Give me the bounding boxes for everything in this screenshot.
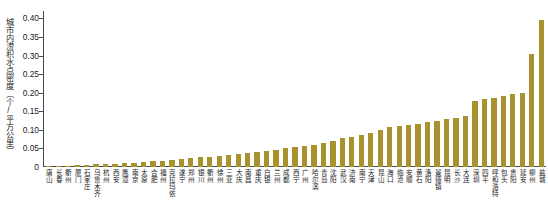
bar[interactable] bbox=[368, 11, 373, 167]
bar-rect bbox=[46, 166, 51, 167]
bar-rect bbox=[434, 121, 439, 167]
bar[interactable] bbox=[283, 11, 288, 167]
bar-rect bbox=[188, 158, 193, 167]
bar-rect bbox=[160, 161, 165, 167]
x-axis-tick-label: 延安 bbox=[519, 169, 526, 183]
bar[interactable] bbox=[378, 11, 383, 167]
bar-rect bbox=[179, 159, 184, 167]
y-axis-tick-mark bbox=[39, 18, 43, 19]
bar[interactable] bbox=[112, 11, 117, 167]
x-axis-tick-label: 福州 bbox=[159, 169, 166, 183]
x-axis-tick-label: 沈阳 bbox=[329, 169, 336, 183]
bar-rect bbox=[501, 96, 506, 167]
bar[interactable] bbox=[169, 11, 174, 167]
y-axis-tick-mark bbox=[39, 130, 43, 131]
bar-rect bbox=[368, 133, 373, 167]
bar[interactable] bbox=[453, 11, 458, 167]
bar[interactable] bbox=[292, 11, 297, 167]
bar[interactable] bbox=[434, 11, 439, 167]
bar[interactable] bbox=[122, 11, 127, 167]
bar[interactable] bbox=[56, 11, 61, 167]
bar[interactable] bbox=[406, 11, 411, 167]
bar[interactable] bbox=[397, 11, 402, 167]
x-axis-tick-label: 长沙 bbox=[453, 169, 460, 183]
bar[interactable] bbox=[340, 11, 345, 167]
bar-rect bbox=[453, 118, 458, 167]
bar[interactable] bbox=[188, 11, 193, 167]
bar[interactable] bbox=[472, 11, 477, 167]
bar[interactable] bbox=[236, 11, 241, 167]
bar[interactable] bbox=[321, 11, 326, 167]
y-axis-tick-label: 0 bbox=[34, 163, 39, 171]
bar[interactable] bbox=[226, 11, 231, 167]
bar[interactable] bbox=[217, 11, 222, 167]
bar[interactable] bbox=[425, 11, 430, 167]
bar-rect bbox=[302, 146, 307, 167]
x-axis-tick-label: 遂宁 bbox=[178, 169, 185, 183]
x-axis-tick-label: 景德镇 bbox=[434, 169, 441, 190]
bar-rect bbox=[93, 164, 98, 167]
bar-rect bbox=[226, 155, 231, 167]
y-axis-tick-label: 0.05 bbox=[23, 144, 39, 152]
bar-rect bbox=[217, 156, 222, 167]
x-axis-tick-label: 成都 bbox=[282, 169, 289, 183]
x-axis-tick-label: 三亚 bbox=[225, 169, 232, 183]
bar[interactable] bbox=[65, 11, 70, 167]
x-axis-tick-label: 安顺 bbox=[405, 169, 412, 183]
bar[interactable] bbox=[160, 11, 165, 167]
bar-rect bbox=[207, 157, 212, 167]
bar[interactable] bbox=[539, 11, 544, 167]
y-axis-tick-labels: 00.050.100.150.200.250.300.350.40 bbox=[13, 0, 41, 175]
bar[interactable] bbox=[254, 11, 259, 167]
bar[interactable] bbox=[150, 11, 155, 167]
bar-rect bbox=[472, 101, 477, 167]
bar[interactable] bbox=[359, 11, 364, 167]
bar[interactable] bbox=[245, 11, 250, 167]
x-axis-tick-label: 贵阳 bbox=[509, 169, 516, 183]
bar[interactable] bbox=[529, 11, 534, 167]
bar[interactable] bbox=[198, 11, 203, 167]
x-axis-tick-label: 白银 bbox=[263, 169, 270, 183]
bar-rect bbox=[321, 143, 326, 167]
x-axis-tick-label: 衢州 bbox=[206, 169, 213, 183]
y-axis-tick-label: 0.40 bbox=[23, 14, 39, 22]
bar-rect bbox=[273, 150, 278, 167]
bar[interactable] bbox=[46, 11, 51, 167]
x-axis-tick-label: 昆明 bbox=[443, 169, 450, 183]
bar[interactable] bbox=[349, 11, 354, 167]
bar-rect bbox=[387, 127, 392, 167]
bar[interactable] bbox=[510, 11, 515, 167]
x-axis-tick-label: 呼和浩特 bbox=[491, 169, 498, 197]
bar[interactable] bbox=[93, 11, 98, 167]
bar[interactable] bbox=[207, 11, 212, 167]
bar[interactable] bbox=[463, 11, 468, 167]
bar[interactable] bbox=[415, 11, 420, 167]
bar[interactable] bbox=[273, 11, 278, 167]
bar[interactable] bbox=[482, 11, 487, 167]
bar[interactable] bbox=[84, 11, 89, 167]
bar[interactable] bbox=[444, 11, 449, 167]
bar[interactable] bbox=[501, 11, 506, 167]
bar-rect bbox=[444, 119, 449, 167]
x-axis-tick-label: 四平 bbox=[481, 169, 488, 183]
x-axis-tick-label: 乌鲁木齐 bbox=[93, 169, 100, 197]
bar-rect bbox=[292, 147, 297, 167]
x-axis-tick-label: 洛阳 bbox=[424, 169, 431, 183]
bar-rect bbox=[340, 138, 345, 167]
bar[interactable] bbox=[311, 11, 316, 167]
x-axis-tick-label: 天津 bbox=[367, 169, 374, 183]
bar[interactable] bbox=[520, 11, 525, 167]
bar[interactable] bbox=[387, 11, 392, 167]
bar[interactable] bbox=[179, 11, 184, 167]
bar[interactable] bbox=[131, 11, 136, 167]
x-axis-tick-label: 衢州 bbox=[64, 169, 71, 183]
bar-rect bbox=[397, 126, 402, 167]
bar[interactable] bbox=[74, 11, 79, 167]
bar[interactable] bbox=[491, 11, 496, 167]
bar[interactable] bbox=[141, 11, 146, 167]
bar[interactable] bbox=[103, 11, 108, 167]
bar[interactable] bbox=[264, 11, 269, 167]
bar[interactable] bbox=[302, 11, 307, 167]
bar[interactable] bbox=[330, 11, 335, 167]
bar-rect bbox=[245, 153, 250, 167]
